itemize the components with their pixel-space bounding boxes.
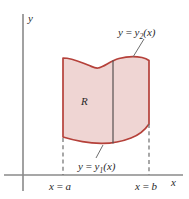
figure-region-between-curves: y x R y = y2(x) y = y1(x) x = a x = b [0,0,189,199]
upper-curve-label-eq: = [123,26,135,38]
x-axis-label: x [170,176,176,188]
left-bound-eq: = [54,180,66,192]
left-bound-label: x = a [48,180,72,192]
lower-curve-label: y = y1(x) [77,160,116,175]
leader-line-upper-curve [133,39,144,57]
region-r-shape [63,57,149,144]
upper-curve-label-arg: (x) [143,26,156,39]
leader-line-lower-curve [96,145,103,158]
region-label-r: R [80,95,88,107]
lower-curve-label-eq: = [83,160,95,172]
right-bound-eq: = [140,180,152,192]
lower-curve-label-arg: (x) [103,160,116,173]
right-bound-label: x = b [134,180,158,192]
upper-curve-label: y = y2(x) [117,26,156,41]
left-bound-rhs: a [66,180,72,192]
figure-canvas: y x R y = y2(x) y = y1(x) x = a x = b [0,0,189,199]
y-axis-label: y [27,12,33,24]
right-bound-rhs: b [152,180,158,192]
